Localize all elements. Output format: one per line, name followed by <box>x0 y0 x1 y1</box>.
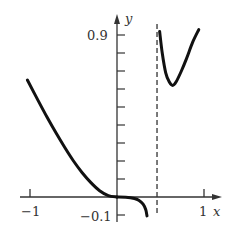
x-axis-label: x <box>213 204 221 219</box>
y-axis-arrow-icon <box>114 14 120 24</box>
function-graph: y x −1 1 0.9 −0.1 <box>0 0 239 232</box>
y-axis-ticks <box>117 35 125 215</box>
x-tick-label-neg1: −1 <box>21 204 40 219</box>
middle-branch-curve <box>117 197 147 216</box>
right-branch-curve <box>160 30 199 86</box>
y-tick-label-neg0.1: −0.1 <box>80 209 112 224</box>
x-axis-arrow-icon <box>212 194 222 200</box>
x-tick-label-1: 1 <box>199 204 207 219</box>
y-tick-label-0.9: 0.9 <box>87 28 108 43</box>
y-axis-label: y <box>124 11 133 26</box>
curves <box>27 30 198 216</box>
left-branch-curve <box>27 80 117 197</box>
